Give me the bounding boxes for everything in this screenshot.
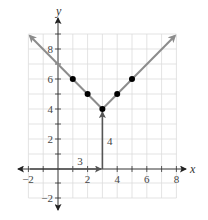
- vertex-point: [99, 106, 105, 112]
- point: [85, 91, 91, 97]
- x-axis-label: x: [189, 162, 196, 176]
- x-tick-label: 4: [114, 173, 120, 185]
- y-tick-label: 2: [48, 133, 54, 145]
- right-branch: [102, 36, 174, 109]
- point: [70, 76, 76, 82]
- y-tick-label: 6: [48, 73, 54, 85]
- x-tick-label: −2: [22, 173, 34, 185]
- left-branch: [30, 36, 102, 109]
- point: [114, 91, 120, 97]
- y-tick-label: 4: [48, 103, 54, 115]
- point: [129, 76, 135, 82]
- y-tick-label: −2: [41, 192, 53, 204]
- horizontal-shift-label: 3: [77, 155, 83, 167]
- x-tick-label: 2: [85, 173, 91, 185]
- x-tick-label: 8: [174, 173, 180, 185]
- y-axis-label: y: [55, 4, 62, 18]
- coordinate-plane-chart: −2 2 4 6 8 −2 2 4 6 8 x y 3 4: [0, 0, 208, 220]
- vertical-shift-label: 4: [107, 135, 113, 147]
- x-tick-label: 6: [144, 173, 150, 185]
- shift-arrows: 3 4: [58, 112, 113, 169]
